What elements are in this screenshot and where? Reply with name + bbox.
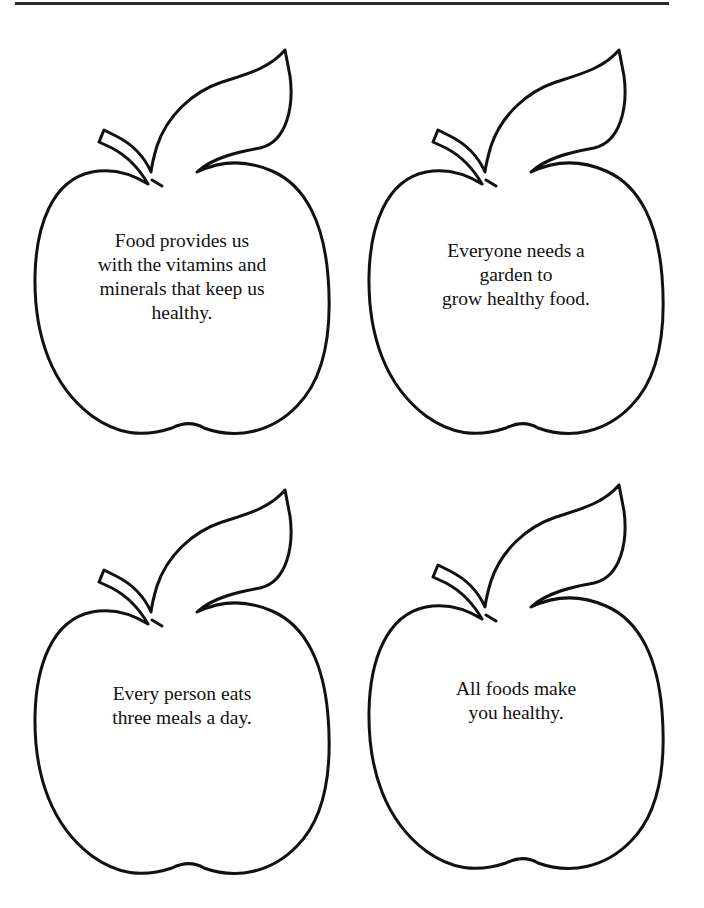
card-2-line-2: garden to [406,263,626,287]
card-1-line-2: with the vitamins and [72,253,292,277]
card-3-line-1: Every person eats [72,682,292,706]
card-3-text: Every person eats three meals a day. [72,682,292,730]
card-3-line-2: three meals a day. [72,706,292,730]
card-1-text: Food provides us with the vitamins and m… [72,229,292,325]
card-1-line-4: healthy. [72,301,292,325]
card-1-line-3: minerals that keep us [72,277,292,301]
card-4-text: All foods make you healthy. [406,677,626,725]
top-rule-divider [15,2,669,5]
card-4-line-2: you healthy. [406,701,626,725]
card-2-text: Everyone needs a garden to grow healthy … [406,239,626,311]
card-4-line-1: All foods make [406,677,626,701]
card-1-line-1: Food provides us [72,229,292,253]
card-2-line-1: Everyone needs a [406,239,626,263]
card-2-line-3: grow healthy food. [406,287,626,311]
apple-card-3: Every person eats three meals a day. [32,486,332,886]
apple-card-2: Everyone needs a garden to grow healthy … [366,46,666,446]
apple-card-1: Food provides us with the vitamins and m… [32,46,332,446]
apple-card-4: All foods make you healthy. [366,481,666,881]
